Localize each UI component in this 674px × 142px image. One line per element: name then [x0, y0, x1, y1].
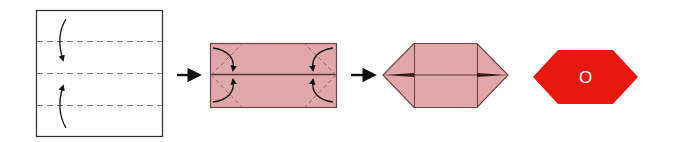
- result-label: O: [579, 68, 592, 87]
- step-4-result-hexagon: O: [533, 50, 638, 104]
- step-1-square-paper: [37, 11, 163, 137]
- pink-rectangle: [211, 44, 337, 108]
- folding-diagram: O: [0, 0, 674, 142]
- step-2-pink-rectangle: [210, 44, 337, 108]
- step-3-pink-hexagon: [383, 44, 508, 108]
